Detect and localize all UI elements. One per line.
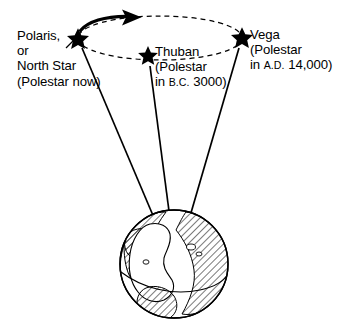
label-vega-prefix: in	[250, 57, 264, 72]
label-vega-line-2: (Polestar	[250, 42, 332, 57]
label-thuban-line-3: in B.C. 3000)	[155, 74, 226, 90]
label-vega-line-1: Vega	[250, 27, 332, 42]
label-thuban-line-2: (Polestar	[155, 59, 226, 74]
label-vega: Vega (Polestar in A.D. 14,000)	[250, 27, 332, 74]
sight-line-thuban	[150, 66, 172, 234]
earth-globe	[120, 210, 231, 321]
earth-island-b	[196, 252, 202, 256]
earth-island-c	[143, 260, 149, 264]
label-thuban-suffix: 3000)	[190, 74, 227, 89]
label-polaris-line-4: (Polestar now)	[17, 74, 101, 89]
earth-island-a	[187, 244, 196, 250]
label-thuban-era: B.C.	[169, 76, 190, 88]
label-polaris-line-1: Polaris,	[17, 28, 101, 43]
label-thuban: Thuban (Polestar in B.C. 3000)	[155, 44, 226, 91]
label-polaris-line-3: North Star	[17, 58, 101, 73]
label-vega-era: A.D.	[264, 59, 285, 71]
label-polaris-line-2: or	[17, 43, 101, 58]
label-vega-suffix: 14,000)	[285, 57, 333, 72]
label-vega-line-3: in A.D. 14,000)	[250, 57, 332, 73]
label-thuban-line-1: Thuban	[155, 44, 226, 59]
label-thuban-prefix: in	[155, 74, 169, 89]
label-polaris: Polaris, or North Star (Polestar now)	[17, 28, 101, 89]
diagram-canvas: Polaris, or North Star (Polestar now) Th…	[0, 0, 354, 331]
